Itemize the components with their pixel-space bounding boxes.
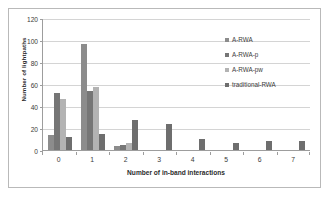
x-axis-tickmark <box>42 152 43 155</box>
x-axis-tick-labels: 01234567 <box>42 152 310 166</box>
x-axis-tick-label: 2 <box>109 156 143 163</box>
y-axis-tick-label: 20 <box>31 126 38 133</box>
legend-swatch-icon <box>225 53 229 57</box>
legend-item[interactable]: traditional-RWA <box>225 77 325 92</box>
legend-label: traditional-RWA <box>232 81 276 88</box>
bar-group <box>177 19 210 150</box>
y-axis-tick-labels: 020406080100120 <box>19 19 40 151</box>
x-axis-tickmark <box>309 152 310 155</box>
chart-frame: Number of lightpaths 020406080100120 012… <box>8 8 321 188</box>
bar <box>99 134 105 151</box>
y-axis-tick-label: 80 <box>31 60 38 67</box>
x-axis-tick: 4 <box>176 152 210 166</box>
bar <box>66 137 72 150</box>
y-axis-tick-label: 100 <box>27 38 38 45</box>
legend-item[interactable]: A-RWA-p <box>225 47 325 62</box>
x-axis-tick-label: 0 <box>42 156 76 163</box>
x-axis-tick: 7 <box>277 152 311 166</box>
x-axis-tick: 6 <box>243 152 277 166</box>
bar <box>199 139 205 150</box>
legend-label: A-RWA-pw <box>232 66 263 73</box>
x-axis-tick-label: 5 <box>210 156 244 163</box>
y-axis-tick-label: 60 <box>31 82 38 89</box>
y-axis-tick-label: 0 <box>34 148 38 155</box>
legend-swatch-icon <box>225 38 229 42</box>
figure: Number of lightpaths 020406080100120 012… <box>0 0 331 210</box>
bar-group <box>110 19 143 150</box>
y-axis-tick-label: 120 <box>27 16 38 23</box>
x-axis-tick: 5 <box>210 152 244 166</box>
bar <box>266 141 272 150</box>
bar <box>299 141 305 150</box>
legend-label: A-RWA <box>232 36 253 43</box>
legend: A-RWAA-RWA-pA-RWA-pwtraditional-RWA <box>225 32 325 92</box>
y-axis-tick-label: 40 <box>31 104 38 111</box>
x-axis-tickmark <box>243 152 244 155</box>
x-axis-tickmark <box>76 152 77 155</box>
x-axis-tickmark <box>109 152 110 155</box>
legend-item[interactable]: A-RWA-pw <box>225 62 325 77</box>
x-axis-tick: 2 <box>109 152 143 166</box>
legend-swatch-icon <box>225 68 229 72</box>
legend-item[interactable]: A-RWA <box>225 32 325 47</box>
x-axis-tick: 0 <box>42 152 76 166</box>
legend-label: A-RWA-p <box>232 51 258 58</box>
bar-group <box>143 19 176 150</box>
x-axis-tickmark <box>210 152 211 155</box>
x-axis-tick-label: 1 <box>76 156 110 163</box>
x-axis-tick-label: 6 <box>243 156 277 163</box>
bar-group <box>76 19 109 150</box>
x-axis-tick: 3 <box>143 152 177 166</box>
x-axis-tick-label: 4 <box>176 156 210 163</box>
x-axis-tick: 1 <box>76 152 110 166</box>
legend-swatch-icon <box>225 83 229 87</box>
x-axis-tickmark <box>277 152 278 155</box>
bar <box>132 120 138 150</box>
bar-group <box>43 19 76 150</box>
bar <box>166 124 172 150</box>
bar <box>233 143 239 150</box>
x-axis-tick-label: 7 <box>277 156 311 163</box>
x-axis-tick-label: 3 <box>143 156 177 163</box>
x-axis-tickmark <box>176 152 177 155</box>
x-axis-title: Number of in-band interactions <box>42 169 310 176</box>
x-axis-tickmark <box>143 152 144 155</box>
